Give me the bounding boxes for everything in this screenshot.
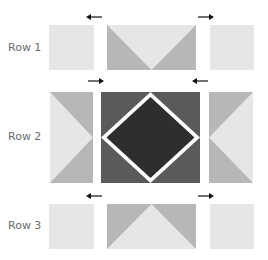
row-3-left-square [49,204,94,249]
row-1-right-square [210,25,254,70]
row-2-center-square-in-square [101,92,200,183]
row-2-right-flying-geese [209,92,253,183]
row-1-label: Row 1 [8,41,41,54]
row-3-label: Row 3 [8,219,41,232]
row-3-right-square [210,204,254,249]
arrow-left-icon [192,78,208,84]
row-3-flying-geese [107,204,196,249]
row-2-left-flying-geese [50,92,93,183]
arrow-left-icon [86,193,102,199]
arrow-right-icon [88,78,104,84]
arrow-right-icon [198,14,214,20]
row-1-flying-geese [107,25,196,70]
arrow-right-icon [198,193,214,199]
row-1-left-square [49,25,94,70]
arrow-left-icon [86,14,102,20]
row-2-label: Row 2 [8,130,41,143]
